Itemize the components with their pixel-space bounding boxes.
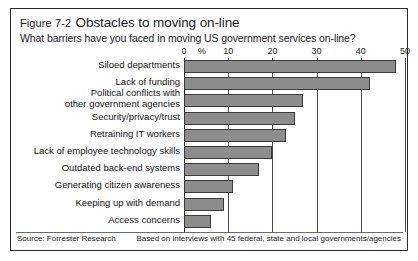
bar-chart-plot: 01020304050% Siloed departmentsLack of f… (11, 46, 407, 232)
footer-divider (16, 232, 403, 233)
bar-category-label: Security/privacy/trust (30, 111, 180, 122)
bar (184, 94, 303, 107)
bar-category-label: Siloed departments (30, 59, 180, 70)
chart-row: Retraining IT workers (184, 128, 407, 143)
bar (184, 215, 211, 228)
bar (184, 112, 295, 125)
bar-category-label: Access concerns (30, 214, 180, 225)
x-axis-tick-0: 0 (181, 46, 186, 56)
x-axis-tick-50: 50 (400, 46, 410, 56)
bar-category-label: Retraining IT workers (30, 128, 180, 139)
figure-number: Figure 7-2 (20, 17, 71, 29)
chart-row: Outdated back-end systems (184, 162, 407, 177)
chart-row: Siloed departments (184, 59, 407, 74)
x-axis-tick-20: 20 (267, 46, 277, 56)
chart-row: Generating citizen awareness (184, 179, 407, 194)
page-title: Obstacles to moving on-line (76, 15, 240, 30)
figure-frame: Figure 7-2 Obstacles to moving on-line W… (10, 8, 408, 251)
chart-row: Access concerns (184, 214, 407, 229)
bar-category-label: Lack of employee technology skills (30, 145, 180, 156)
x-axis-tick-40: 40 (356, 46, 366, 56)
bar-category-label: Political conflicts withother government… (30, 88, 180, 109)
chart-row: Lack of funding (184, 76, 407, 91)
figure-footer: Source: Forrester Research Based on inte… (11, 232, 403, 246)
bar (184, 146, 272, 159)
bar (184, 180, 233, 193)
bar (184, 60, 396, 73)
chart-row: Security/privacy/trust (184, 111, 407, 126)
figure-subtitle: What barriers have you faced in moving U… (20, 31, 401, 45)
bar (184, 163, 259, 176)
chart-row: Keeping up with demand (184, 197, 407, 212)
x-axis-tick-30: 30 (312, 46, 322, 56)
bar-category-label: Keeping up with demand (30, 197, 180, 208)
x-axis-percent-symbol: % (198, 46, 206, 56)
chart-row: Political conflicts withother government… (184, 93, 407, 108)
bar (184, 77, 370, 90)
bar (184, 198, 224, 211)
bar-category-label: Lack of funding (30, 76, 180, 87)
methodology-note: Based on interviews with 45 federal, sta… (136, 234, 401, 243)
chart-row: Lack of employee technology skills (184, 145, 407, 160)
figure-title-line: Figure 7-2 Obstacles to moving on-line (20, 14, 401, 31)
source-label: Source: Forrester Research (17, 234, 116, 243)
bar-category-label: Generating citizen awareness (30, 179, 180, 190)
chart-bar-rows: Siloed departmentsLack of fundingPolitic… (11, 58, 407, 232)
bar-category-label: Outdated back-end systems (30, 162, 180, 173)
x-axis-tick-labels: 01020304050% (11, 46, 407, 58)
figure-header: Figure 7-2 Obstacles to moving on-line W… (20, 14, 401, 45)
x-axis-tick-10: 10 (223, 46, 233, 56)
bar (184, 129, 286, 142)
